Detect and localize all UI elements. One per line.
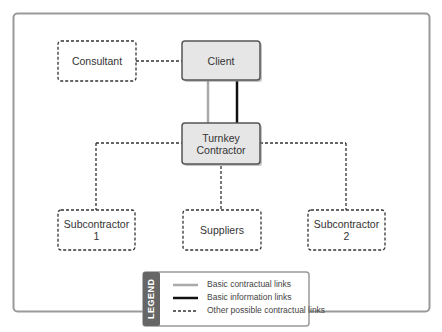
node-sub2-line2: 2 (344, 230, 350, 242)
node-consultant-label: Consultant (72, 55, 122, 67)
node-sub1-line2: 1 (94, 230, 100, 242)
node-consultant: Consultant (58, 41, 136, 81)
node-sub2-line1: Subcontractor (314, 218, 379, 230)
node-turnkey-line1: Turnkey (202, 132, 240, 144)
node-subcontractor-2: Subcontractor 2 (308, 210, 385, 250)
legend-title: LEGEND (146, 278, 156, 319)
node-client: Client (182, 41, 260, 80)
node-turnkey-contractor: Turnkey Contractor (182, 123, 260, 164)
node-turnkey-line2: Contractor (196, 144, 245, 156)
node-subcontractor-1: Subcontractor 1 (58, 210, 135, 250)
legend-item-basic-contractual: Basic contractual links (207, 279, 291, 289)
node-suppliers-label: Suppliers (200, 224, 244, 236)
node-sub1-line1: Subcontractor (64, 218, 129, 230)
node-client-label: Client (208, 55, 235, 67)
legend-item-basic-information: Basic information links (207, 292, 292, 302)
legend-item-other-contractual: Other possible contractual links (207, 305, 325, 315)
node-suppliers: Suppliers (183, 210, 261, 250)
